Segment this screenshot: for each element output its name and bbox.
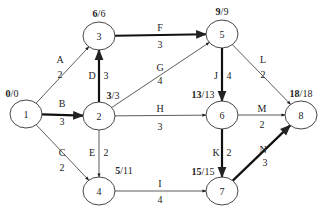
activity-duration: 4 xyxy=(227,70,232,81)
early-time: 13 xyxy=(192,89,202,100)
activity-label: D xyxy=(88,70,95,81)
late-time: 15 xyxy=(204,166,214,177)
early-time: 15 xyxy=(192,166,202,177)
activity-label: I xyxy=(158,178,161,189)
activity-duration: 3 xyxy=(104,70,109,81)
activity-duration: 3 xyxy=(60,116,65,127)
node-number: 4 xyxy=(97,186,102,197)
late-time: 6 xyxy=(100,8,105,19)
late-time: 11 xyxy=(123,165,133,176)
event-node-5: 59/9 xyxy=(206,6,238,48)
activity-label: N xyxy=(259,144,266,155)
event-node-3: 36/6 xyxy=(83,8,115,50)
activity-label: M xyxy=(258,103,267,114)
activity-label: C xyxy=(59,147,66,158)
event-node-4: 45/11 xyxy=(83,165,133,205)
node-number: 7 xyxy=(220,186,225,197)
late-time: 9 xyxy=(223,6,228,17)
activity-label: A xyxy=(56,54,64,65)
node-times: 6/6 xyxy=(93,8,106,19)
node-number: 2 xyxy=(97,111,102,122)
activity-duration: 4 xyxy=(158,194,163,205)
event-node-8: 818/18 xyxy=(285,88,317,129)
early-time: 18 xyxy=(290,88,300,99)
node-number: 3 xyxy=(97,31,102,42)
event-node-1: 10/0 xyxy=(6,88,42,128)
node-times: 15/15 xyxy=(192,166,215,177)
node-times: 3/3 xyxy=(107,90,120,101)
activity-duration: 2 xyxy=(227,147,232,158)
activity-duration: 3 xyxy=(158,121,163,132)
event-node-6: 613/13 xyxy=(192,89,238,129)
activity-arrow-f xyxy=(115,34,206,35)
activity-label: E xyxy=(89,147,95,158)
activity-duration: 3 xyxy=(263,157,268,168)
node-times: 9/9 xyxy=(216,6,229,17)
activity-duration: 3 xyxy=(158,39,163,50)
activity-label: K xyxy=(212,147,220,158)
activity-label: H xyxy=(156,103,163,114)
node-times: 18/18 xyxy=(290,88,313,99)
activity-arrow-h xyxy=(115,115,206,116)
late-time: 0 xyxy=(13,88,18,99)
activity-duration: 4 xyxy=(158,75,163,86)
activity-label: B xyxy=(59,98,66,109)
node-times: 13/13 xyxy=(192,89,215,100)
activity-label: L xyxy=(260,54,266,65)
activity-duration: 2 xyxy=(60,162,65,173)
node-number: 1 xyxy=(24,109,29,120)
event-node-2: 23/3 xyxy=(83,90,119,130)
late-time: 3 xyxy=(114,90,119,101)
node-times: 5/11 xyxy=(115,165,132,176)
activity-label: F xyxy=(157,22,163,33)
node-number: 5 xyxy=(220,29,225,40)
event-node-7: 715/15 xyxy=(192,166,238,205)
activity-duration: 2 xyxy=(104,147,109,158)
late-time: 18 xyxy=(302,88,312,99)
node-number: 8 xyxy=(299,110,304,121)
activity-duration: 2 xyxy=(260,119,265,130)
activity-label: J xyxy=(214,70,218,81)
network-diagram: A2B3C2D3E2F3G4H3I4J4K2L2M2N3 10/023/336/… xyxy=(0,0,331,216)
node-number: 6 xyxy=(220,110,225,121)
activity-duration: 2 xyxy=(58,69,63,80)
activity-duration: 2 xyxy=(261,69,266,80)
late-time: 13 xyxy=(204,89,214,100)
diagram-canvas: A2B3C2D3E2F3G4H3I4J4K2L2M2N3 10/023/336/… xyxy=(0,0,331,216)
activity-label: G xyxy=(156,62,163,73)
node-times: 0/0 xyxy=(6,88,19,99)
